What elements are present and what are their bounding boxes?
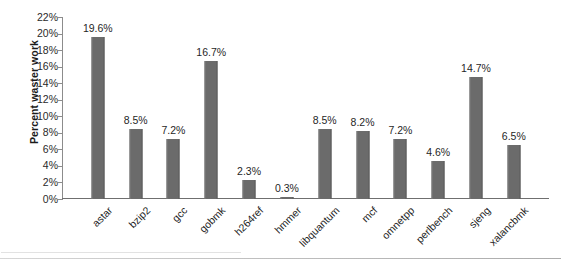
bar-value-label: 16.7%	[196, 46, 226, 58]
bar-value-label: 8.5%	[313, 114, 337, 126]
page-edge-line-faint	[1, 252, 241, 253]
bar-value-label: 14.7%	[461, 62, 491, 74]
bar[interactable]	[356, 131, 369, 199]
bar-group: 16.7%	[192, 17, 230, 199]
x-category-label: astar	[89, 204, 114, 229]
y-tick-label: 4%	[24, 160, 58, 170]
plot-area: 19.6%8.5%7.2%16.7%2.3%0.3%8.5%8.2%7.2%4.…	[63, 17, 549, 199]
x-category-label: bzip2	[126, 204, 152, 230]
y-tick-label: 16%	[24, 61, 58, 71]
x-category-label: omnetpp	[379, 204, 416, 241]
bar-group: 7.2%	[381, 17, 419, 199]
bar[interactable]	[507, 145, 520, 199]
x-category-label: h264ref	[232, 204, 266, 238]
bar-chart: Percent waster work 22%20%18%16%14%12%10…	[0, 0, 561, 268]
bar-group: 14.7%	[457, 17, 495, 199]
bar-value-label: 0.3%	[275, 182, 299, 194]
bar-group: 19.6%	[79, 17, 117, 199]
x-axis-category-labels: astarbzip2gccgobmkh264refhmmerlibquantum…	[63, 200, 549, 260]
bar[interactable]	[432, 161, 445, 199]
bar[interactable]	[91, 37, 104, 199]
bar-value-label: 7.2%	[388, 124, 412, 136]
bar-group: 8.2%	[344, 17, 382, 199]
bar[interactable]	[318, 129, 331, 199]
bar[interactable]	[167, 139, 180, 199]
bar-value-label: 8.5%	[124, 114, 148, 126]
y-tick-label: 0%	[24, 194, 58, 204]
bar-group: 0.3%	[268, 17, 306, 199]
bar-value-label: 19.6%	[83, 22, 113, 34]
x-category-label: mcf	[359, 204, 379, 224]
chart-screenshot: Percent waster work 22%20%18%16%14%12%10…	[0, 0, 561, 268]
y-tick-label: 20%	[24, 28, 58, 38]
y-tick-label: 8%	[24, 127, 58, 137]
y-tick-label: 6%	[24, 144, 58, 154]
y-tick-label: 14%	[24, 78, 58, 88]
bar[interactable]	[205, 61, 218, 199]
y-tick-label: 18%	[24, 45, 58, 55]
x-category-label: perlbench	[414, 204, 455, 245]
bar[interactable]	[280, 197, 293, 199]
y-tick-label: 12%	[24, 94, 58, 104]
bar-group: 6.5%	[495, 17, 533, 199]
x-category-label: gcc	[170, 204, 190, 224]
x-category-label: xalancbmk	[486, 204, 530, 248]
bar-value-label: 6.5%	[502, 130, 526, 142]
bar-group: 8.5%	[306, 17, 344, 199]
x-category-label: hmmer	[272, 204, 304, 236]
bar-group: 4.6%	[419, 17, 457, 199]
bar-group: 8.5%	[117, 17, 155, 199]
y-tick-label: 22%	[24, 12, 58, 22]
bar[interactable]	[394, 139, 407, 199]
x-category-label: gobmk	[197, 204, 228, 235]
page-edge-line	[0, 258, 561, 259]
bar-group: 2.3%	[230, 17, 268, 199]
bar-value-label: 4.6%	[426, 146, 450, 158]
bar-value-label: 7.2%	[161, 124, 185, 136]
x-category-label: sjeng	[466, 204, 492, 230]
y-tick-label: 10%	[24, 111, 58, 121]
bar[interactable]	[243, 180, 256, 199]
bar-value-label: 2.3%	[237, 165, 261, 177]
y-tick-label: 2%	[24, 177, 58, 187]
y-axis-tick-labels: 22%20%18%16%14%12%10%8%6%4%2%0%	[24, 0, 58, 268]
bar-value-label: 8.2%	[351, 116, 375, 128]
bar[interactable]	[470, 77, 483, 199]
bar[interactable]	[129, 129, 142, 199]
bar-group: 7.2%	[155, 17, 193, 199]
